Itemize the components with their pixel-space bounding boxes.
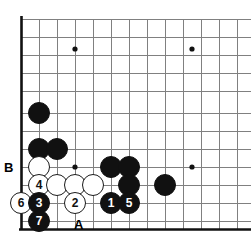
star-point-upper-right <box>189 46 194 51</box>
stone-move-number: 1 <box>108 197 115 209</box>
star-point-lower-left <box>72 164 77 169</box>
white-stone-move-2[interactable]: 2 <box>64 192 86 214</box>
black-stone-move-5[interactable]: 5 <box>118 192 140 214</box>
white-stone-mid-c[interactable] <box>82 174 104 196</box>
stone-move-number: 2 <box>72 197 79 209</box>
point-label-a: A <box>74 218 83 231</box>
black-stone-left-b[interactable] <box>46 138 68 160</box>
stone-move-number: 7 <box>36 215 43 227</box>
black-stone-upper-left[interactable] <box>28 102 50 124</box>
black-stone-move-7[interactable]: 7 <box>28 210 50 232</box>
stone-move-number: 6 <box>18 197 25 209</box>
stone-move-number: 3 <box>36 197 43 209</box>
point-label-b: B <box>4 161 13 174</box>
black-stone-right-side[interactable] <box>154 174 176 196</box>
star-point-lower-right <box>189 164 194 169</box>
go-board-diagram: 4632157 BA <box>0 0 251 249</box>
star-point-upper-left <box>72 46 77 51</box>
stone-move-number: 4 <box>36 179 43 191</box>
stone-move-number: 5 <box>126 197 133 209</box>
